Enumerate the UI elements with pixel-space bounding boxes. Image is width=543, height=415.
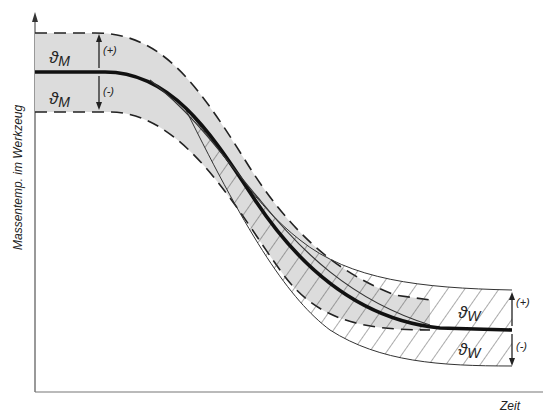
melt-lower-sign: (-) [103, 85, 114, 97]
wall-upper-sign: (+) [516, 296, 530, 308]
melt-upper-sign: (+) [103, 44, 117, 56]
y-axis-arrow-icon [32, 12, 38, 22]
diagram-canvas: ϑM (+) ϑM (-) ϑW (+) ϑW (-) Massentemp. … [0, 0, 543, 415]
x-axis-label: Zeit [499, 399, 521, 413]
wall-lower-sign: (-) [516, 340, 527, 352]
y-axis-label: Massentemp. im Werkzeug [11, 105, 25, 250]
